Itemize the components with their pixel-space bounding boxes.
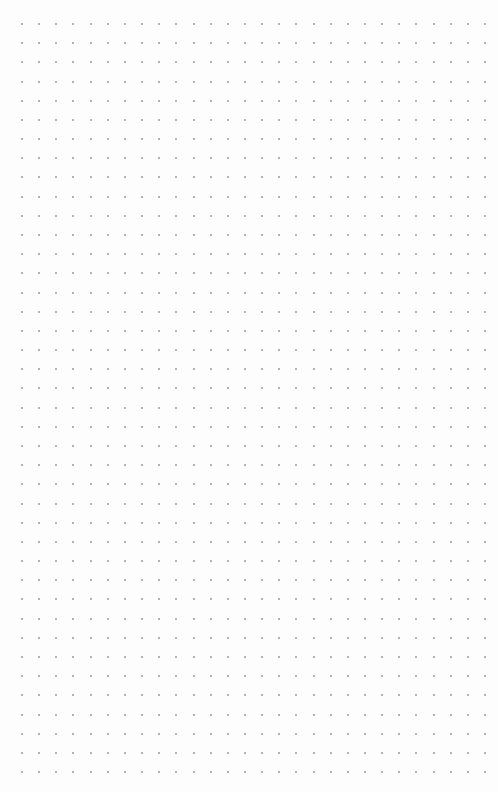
grid-dot [193,311,195,313]
grid-dot [313,675,315,677]
grid-dot [55,42,57,44]
grid-dot [278,522,280,524]
grid-dot [124,61,126,63]
grid-dot [313,733,315,735]
grid-dot [210,579,212,581]
grid-dot [107,119,109,121]
grid-dot [381,445,383,447]
grid-dot [193,253,195,255]
grid-dot [141,598,143,600]
grid-dot [175,426,177,428]
grid-dot [244,196,246,198]
grid-dot [141,618,143,620]
grid-dot [278,253,280,255]
grid-dot [141,292,143,294]
grid-dot [261,215,263,217]
grid-dot [21,368,23,370]
grid-dot [141,138,143,140]
grid-dot [175,752,177,754]
grid-dot [415,215,417,217]
grid-dot [364,675,366,677]
grid-dot [347,771,349,773]
grid-dot [364,522,366,524]
grid-dot [381,292,383,294]
grid-dot [450,426,452,428]
grid-dot [38,387,40,389]
grid-dot [364,541,366,543]
grid-dot [415,483,417,485]
grid-dot [193,579,195,581]
grid-dot [124,387,126,389]
grid-dot [415,253,417,255]
grid-dot [433,579,435,581]
grid-dot [295,618,297,620]
grid-dot [398,234,400,236]
grid-dot [55,714,57,716]
grid-dot [38,579,40,581]
grid-dot [107,752,109,754]
grid-dot [210,598,212,600]
grid-dot [398,61,400,63]
grid-dot [313,253,315,255]
grid-dot [450,618,452,620]
grid-dot [433,119,435,121]
grid-dot [433,541,435,543]
grid-dot [21,694,23,696]
grid-dot [433,733,435,735]
grid-dot [433,752,435,754]
grid-dot [107,253,109,255]
grid-dot [141,752,143,754]
grid-dot [175,445,177,447]
grid-dot [433,483,435,485]
grid-dot [484,81,486,83]
grid-dot [21,618,23,620]
grid-dot [415,23,417,25]
grid-dot [295,483,297,485]
grid-dot [381,176,383,178]
grid-dot [141,522,143,524]
grid-dot [347,196,349,198]
grid-dot [261,560,263,562]
grid-dot [347,714,349,716]
grid-dot [244,694,246,696]
grid-dot [141,464,143,466]
grid-dot [415,349,417,351]
grid-dot [484,656,486,658]
grid-dot [467,426,469,428]
grid-dot [141,23,143,25]
grid-dot [175,272,177,274]
grid-dot [72,330,74,332]
grid-dot [467,330,469,332]
grid-dot [210,176,212,178]
grid-dot [467,387,469,389]
grid-dot [244,330,246,332]
grid-dot [158,675,160,677]
grid-dot [364,560,366,562]
grid-dot [415,157,417,159]
grid-dot [158,272,160,274]
grid-dot [72,560,74,562]
grid-dot [210,253,212,255]
grid-dot [72,138,74,140]
grid-dot [124,253,126,255]
grid-dot [141,157,143,159]
grid-dot [193,694,195,696]
grid-dot [227,714,229,716]
grid-dot [141,176,143,178]
grid-dot [55,119,57,121]
grid-dot [261,407,263,409]
grid-dot [107,483,109,485]
grid-dot [467,81,469,83]
grid-dot [158,253,160,255]
grid-dot [313,311,315,313]
grid-dot [55,656,57,658]
grid-dot [210,426,212,428]
grid-dot [398,445,400,447]
grid-dot [433,675,435,677]
grid-dot [227,675,229,677]
grid-dot [210,503,212,505]
grid-dot [313,23,315,25]
grid-dot [330,138,332,140]
grid-dot [107,196,109,198]
grid-dot [244,503,246,505]
